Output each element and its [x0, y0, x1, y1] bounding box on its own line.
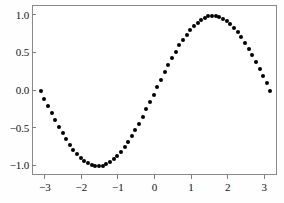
data-point	[64, 137, 68, 141]
data-point	[152, 93, 156, 97]
x-tick-label: −2	[76, 181, 88, 193]
x-tick-label: 2	[225, 181, 231, 193]
data-point	[232, 26, 236, 30]
y-tick-label: 0.0	[16, 84, 29, 96]
data-point	[181, 38, 185, 42]
data-point	[71, 148, 75, 152]
scatter-points-layer	[33, 6, 276, 174]
y-tick-mark	[32, 90, 36, 91]
data-point	[50, 111, 54, 115]
x-tick-mark	[44, 175, 45, 179]
data-point	[265, 81, 269, 85]
data-point	[46, 104, 50, 108]
y-tick-mark	[32, 165, 36, 166]
data-point	[174, 50, 178, 54]
data-point	[155, 85, 159, 89]
data-point	[112, 157, 116, 161]
x-tick-label: −1	[112, 181, 124, 193]
x-tick-label: 3	[261, 181, 267, 193]
y-tick-mark	[32, 14, 36, 15]
data-point	[258, 67, 262, 71]
data-point	[137, 122, 141, 126]
data-point	[185, 33, 189, 37]
data-point	[192, 24, 196, 28]
data-point	[61, 131, 65, 135]
data-point	[144, 107, 148, 111]
data-point	[247, 47, 251, 51]
data-point	[188, 28, 192, 32]
x-tick-mark	[264, 175, 265, 179]
data-point	[170, 56, 174, 60]
data-point	[57, 125, 61, 129]
data-point	[177, 43, 181, 47]
data-point	[254, 60, 258, 64]
y-tick-label: 0.5	[16, 46, 29, 58]
y-tick-label: −0.5	[10, 122, 29, 134]
x-tick-label: −3	[39, 181, 51, 193]
y-tick-mark	[32, 127, 36, 128]
data-point	[141, 115, 145, 119]
data-point	[268, 89, 272, 93]
x-tick-label: 0	[152, 181, 158, 193]
data-point	[261, 74, 265, 78]
data-point	[133, 128, 137, 132]
y-tick-label: −1.0	[10, 159, 29, 171]
x-tick-mark	[227, 175, 228, 179]
data-point	[239, 35, 243, 39]
x-tick-mark	[117, 175, 118, 179]
data-point	[39, 89, 43, 93]
x-tick-mark	[191, 175, 192, 179]
y-tick-label: 1.0	[16, 9, 29, 21]
data-point	[163, 70, 167, 74]
data-point	[130, 134, 134, 138]
plot-area	[32, 5, 277, 175]
data-point	[250, 53, 254, 57]
x-tick-label: 1	[188, 181, 194, 193]
data-point	[123, 145, 127, 149]
data-point	[119, 150, 123, 154]
data-point	[148, 100, 152, 104]
data-point	[236, 30, 240, 34]
y-tick-mark	[32, 52, 36, 53]
data-point	[126, 140, 130, 144]
data-point	[68, 143, 72, 147]
data-point	[115, 154, 119, 158]
data-point	[159, 78, 163, 82]
data-point	[42, 97, 46, 101]
data-point	[53, 118, 57, 122]
data-point	[75, 152, 79, 156]
chart-figure: −1.0−0.50.00.51.0 −3−2−10123	[0, 0, 284, 203]
x-tick-mark	[81, 175, 82, 179]
data-point	[166, 63, 170, 67]
data-point	[243, 41, 247, 45]
data-point	[108, 160, 112, 164]
x-tick-mark	[154, 175, 155, 179]
